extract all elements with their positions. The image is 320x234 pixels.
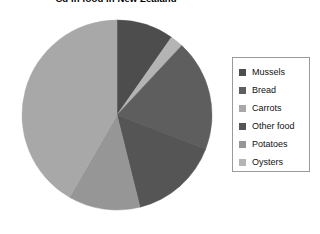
legend-label-potatoes: Potatoes xyxy=(252,139,288,149)
legend-item-mussels[interactable]: Mussels xyxy=(239,63,309,81)
legend-item-potatoes[interactable]: Potatoes xyxy=(239,135,309,153)
pie-chart-figure: Cd in food in New Zealand Mussels Bread … xyxy=(0,0,320,234)
chart-legend: Mussels Bread Carrots Other food Potatoe… xyxy=(232,57,310,172)
legend-item-carrots[interactable]: Carrots xyxy=(239,99,309,117)
legend-label-other-food: Other food xyxy=(252,121,295,131)
legend-swatch-bread xyxy=(239,87,246,94)
chart-title: Cd in food in New Zealand xyxy=(0,0,232,4)
legend-label-carrots: Carrots xyxy=(252,103,282,113)
legend-label-mussels: Mussels xyxy=(252,67,285,77)
pie-svg xyxy=(20,16,214,216)
legend-item-bread[interactable]: Bread xyxy=(239,81,309,99)
legend-item-oysters[interactable]: Oysters xyxy=(239,153,309,171)
legend-swatch-other-food xyxy=(239,123,246,130)
legend-item-other-food[interactable]: Other food xyxy=(239,117,309,135)
legend-swatch-potatoes xyxy=(239,141,246,148)
legend-swatch-oysters xyxy=(239,159,246,166)
legend-swatch-carrots xyxy=(239,105,246,112)
pie-plot-area xyxy=(20,16,214,216)
legend-swatch-mussels xyxy=(239,69,246,76)
pie-slice-group xyxy=(22,20,212,210)
legend-label-oysters: Oysters xyxy=(252,157,283,167)
legend-label-bread: Bread xyxy=(252,85,276,95)
